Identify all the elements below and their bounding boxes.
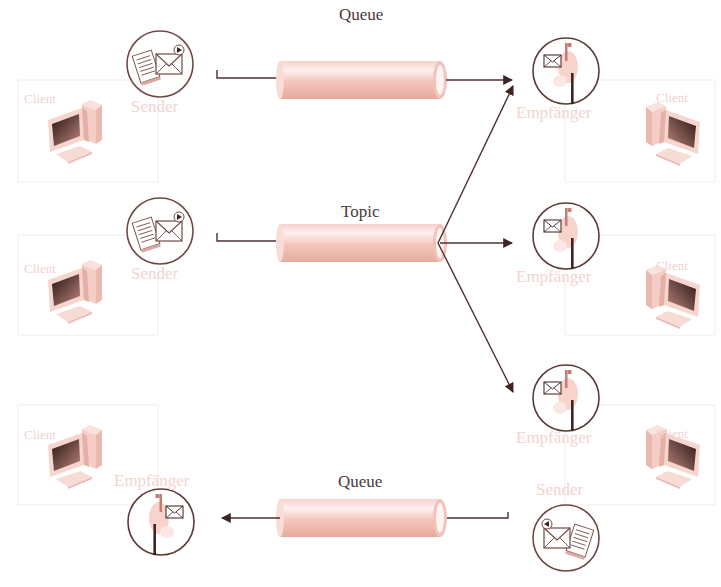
client-computer-icon [48, 260, 102, 324]
queue-top-channel [217, 61, 512, 99]
role-label-empfaenger: Empfänger [516, 267, 592, 287]
client-label: Client [24, 261, 56, 277]
client-label: Client [656, 258, 688, 274]
sender-icon [533, 505, 599, 571]
queue-bottom-channel [222, 499, 508, 537]
queue-pipe-icon [276, 61, 447, 99]
role-label-sender: Sender [131, 264, 178, 284]
role-label-sender: Sender [131, 97, 178, 117]
role-label-empfaenger: Empfänger [516, 103, 592, 123]
client-computer-icon [48, 100, 102, 164]
client-label: Client [24, 91, 56, 107]
topic-pipe-icon [276, 224, 447, 262]
receiver-icon [533, 365, 599, 431]
receiver-icon [533, 203, 599, 269]
sender-icon [127, 198, 193, 264]
role-label-sender: Sender [536, 480, 583, 500]
client-computer-icon [646, 265, 700, 329]
receiver-icon [128, 489, 194, 555]
role-label-empfaenger: Empfänger [114, 471, 190, 491]
client-label: Client [24, 427, 56, 443]
background-frames [18, 80, 715, 505]
sender-icon [127, 31, 193, 97]
channel-label-queue-bottom: Queue [338, 472, 382, 492]
client-label: Client [656, 90, 688, 106]
topic-channel [217, 86, 513, 392]
client-computer-icon [48, 425, 102, 489]
channel-label-queue-top: Queue [339, 5, 383, 25]
client-label: Client [656, 426, 688, 442]
role-label-empfaenger: Empfänger [516, 428, 592, 448]
queue-pipe-icon [276, 499, 447, 537]
receiver-icon [533, 38, 599, 104]
channel-label-topic: Topic [341, 202, 379, 222]
client-computer-icon [646, 102, 700, 166]
messaging-diagram [0, 0, 721, 587]
